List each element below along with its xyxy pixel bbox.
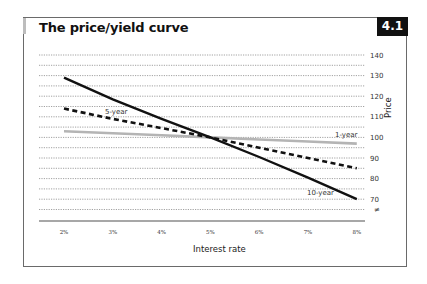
x-tick-label: 6%: [255, 229, 264, 235]
x-tick-label: 8%: [352, 229, 361, 235]
y-tick-label: 90: [370, 155, 379, 163]
axis-break-icon: ≠: [374, 206, 380, 214]
x-tick-label: 4%: [157, 229, 166, 235]
y-tick-label: 80: [370, 175, 379, 183]
x-tick-label: 3%: [108, 229, 117, 235]
y-tick-label: 70: [370, 196, 379, 204]
x-tick-label: 7%: [304, 229, 313, 235]
series-label-10-year: 10-year: [307, 189, 334, 197]
y-axis-ticks: 708090100110120130140: [370, 52, 383, 204]
y-tick-label: 120: [370, 93, 383, 101]
plot-area: 708090100110120130140 2%3%4%5%6%7%8% ≠ 5…: [0, 0, 427, 284]
x-tick-label: 5%: [206, 229, 215, 235]
series-label-5-year: 5-year: [105, 108, 128, 116]
x-axis-title: Interest rate: [193, 244, 246, 254]
series-label-1-year: 1-year: [335, 131, 358, 139]
y-axis-title: Price: [383, 97, 393, 118]
y-tick-label: 100: [370, 134, 383, 142]
x-tick-label: 2%: [60, 229, 69, 235]
y-tick-label: 140: [370, 52, 383, 60]
y-tick-label: 130: [370, 72, 383, 80]
y-tick-label: 110: [370, 113, 383, 121]
x-axis-ticks: 2%3%4%5%6%7%8%: [60, 229, 362, 235]
